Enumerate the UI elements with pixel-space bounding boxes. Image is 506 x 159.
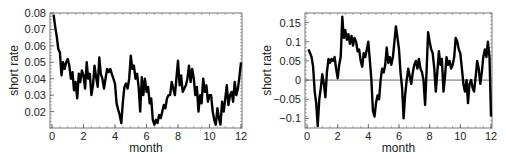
y-tick-label: 0.08: [25, 7, 46, 19]
y-axis-label: short rate: [260, 45, 274, 96]
y-tick-label: 0.1: [286, 36, 301, 48]
x-axis-label: month: [129, 141, 162, 155]
y-tick-label: 0: [295, 74, 301, 86]
x-tick-label: 8: [175, 130, 181, 142]
y-tick-label: 0.07: [25, 23, 46, 35]
y-tick-label: −0.05: [273, 93, 301, 105]
chart-left-short-rate: 0246810120.020.030.040.050.060.070.08mon…: [0, 0, 253, 159]
series-line: [54, 15, 241, 125]
x-tick-label: 0: [49, 130, 55, 142]
x-tick-label: 8: [427, 130, 433, 142]
x-tick-label: 2: [335, 130, 341, 142]
chart-left-svg: 0246810120.020.030.040.050.060.070.08mon…: [0, 0, 253, 159]
y-tick-label: 0.03: [25, 89, 46, 101]
x-tick-label: 12: [235, 130, 247, 142]
y-tick-label: 0.06: [25, 40, 46, 52]
y-axis-label: short rate: [7, 45, 21, 96]
chart-right-svg: 024681012−0.1−0.0500.050.10.15monthshort…: [253, 0, 506, 159]
x-tick-label: 10: [454, 130, 466, 142]
x-axis-label: month: [382, 141, 415, 155]
series-line: [309, 17, 492, 126]
y-tick-label: 0.05: [280, 55, 301, 67]
y-tick-label: 0.04: [25, 73, 46, 85]
y-tick-label: −0.1: [279, 112, 301, 124]
y-tick-label: 0.02: [25, 106, 46, 118]
x-tick-label: 10: [203, 130, 215, 142]
x-tick-label: 0: [304, 130, 310, 142]
y-tick-label: 0.05: [25, 56, 46, 68]
y-tick-label: 0.15: [280, 17, 301, 29]
x-tick-label: 4: [112, 130, 118, 142]
chart-right-short-rate: 024681012−0.1−0.0500.050.10.15monthshort…: [253, 0, 506, 159]
plot-frame: [305, 13, 492, 128]
x-tick-label: 2: [80, 130, 86, 142]
x-tick-label: 12: [485, 130, 497, 142]
x-tick-label: 4: [365, 130, 371, 142]
